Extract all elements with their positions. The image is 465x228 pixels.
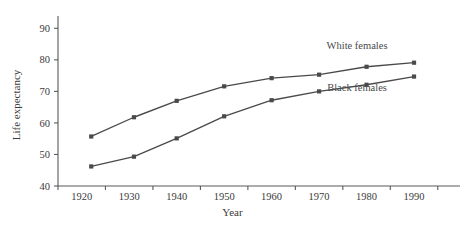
y-axis-tick-label: 80 [40, 54, 51, 65]
data-point-marker [222, 114, 226, 118]
x-axis-tick-label: 1980 [356, 191, 377, 202]
x-axis-label: Year [0, 206, 465, 218]
x-axis-tick-label: 1920 [71, 191, 92, 202]
data-point-marker [364, 65, 368, 69]
chart-plot-area: 4050607080901920193019401950196019701980… [0, 0, 465, 228]
data-point-marker [175, 99, 179, 103]
data-point-marker [317, 89, 321, 93]
y-axis-tick-label: 40 [40, 181, 51, 192]
x-axis-tick-label: 1930 [119, 191, 140, 202]
series-annotation: Black females [327, 82, 387, 93]
y-axis-tick-label: 50 [40, 149, 51, 160]
x-axis-tick-label: 1940 [166, 191, 187, 202]
data-point-marker [317, 73, 321, 77]
data-point-marker [270, 98, 274, 102]
data-point-marker [89, 134, 93, 138]
x-axis-tick-label: 1960 [261, 191, 282, 202]
data-point-marker [132, 115, 136, 119]
data-point-marker [412, 74, 416, 78]
life-expectancy-line-chart: Life expectancy 405060708090192019301940… [0, 0, 465, 228]
y-axis-tick-label: 70 [40, 86, 51, 97]
x-axis-tick-label: 1970 [309, 191, 330, 202]
x-axis-tick-label: 1950 [214, 191, 235, 202]
y-axis-tick-label: 60 [40, 118, 51, 129]
data-point-marker [89, 164, 93, 168]
series-line-1 [91, 63, 414, 137]
data-point-marker [132, 155, 136, 159]
y-axis-tick-label: 90 [40, 23, 51, 34]
data-point-marker [412, 61, 416, 65]
data-point-marker [175, 136, 179, 140]
series-annotation: White females [327, 40, 388, 51]
data-point-marker [270, 76, 274, 80]
x-axis-tick-label: 1990 [404, 191, 425, 202]
data-point-marker [222, 84, 226, 88]
